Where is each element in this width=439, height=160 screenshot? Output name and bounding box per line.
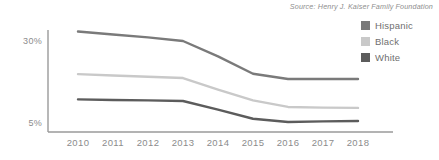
axis-lines — [48, 30, 393, 132]
x-axis-tick-label: 2011 — [102, 137, 124, 148]
series-polylines — [78, 31, 358, 122]
series-line-hispanic — [78, 31, 358, 79]
legend-item-white[interactable]: White — [361, 50, 433, 65]
legend-item-hispanic[interactable]: Hispanic — [361, 18, 433, 33]
chart-legend: HispanicBlackWhite — [361, 18, 433, 66]
y-axis-tick-labels: 30%5% — [23, 36, 42, 128]
x-axis-tick-label: 2016 — [277, 137, 300, 148]
x-axis-tick-label: 2012 — [137, 137, 160, 148]
series-line-white — [78, 99, 358, 122]
x-axis-tick-label: 2015 — [242, 137, 265, 148]
x-axis-tick-label: 2010 — [67, 137, 90, 148]
x-axis-tick-label: 2014 — [207, 137, 230, 148]
legend-item-label: White — [375, 52, 400, 63]
legend-item-black[interactable]: Black — [361, 34, 433, 49]
x-axis-tick-labels: 201020112012201320142015201620172018 — [67, 137, 370, 148]
x-axis-tick-label: 2013 — [172, 137, 195, 148]
line-chart: Source: Henry J. Kaiser Family Foundatio… — [0, 0, 439, 160]
legend-item-label: Black — [375, 36, 399, 47]
legend-swatch-icon — [361, 37, 370, 46]
legend-item-label: Hispanic — [375, 20, 413, 31]
x-axis-tick-label: 2018 — [347, 137, 370, 148]
legend-swatch-icon — [361, 21, 370, 30]
legend-swatch-icon — [361, 53, 370, 62]
x-axis-tick-label: 2017 — [312, 137, 335, 148]
y-axis-tick-label: 5% — [28, 118, 42, 128]
y-axis-tick-label: 30% — [23, 36, 42, 46]
